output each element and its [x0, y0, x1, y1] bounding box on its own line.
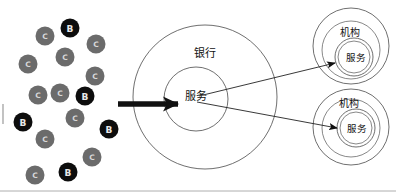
- node-c-circle: [83, 148, 102, 167]
- institution-top: 机构服务: [313, 8, 389, 84]
- node-c-circle: [66, 109, 85, 128]
- cluster-node: C: [29, 86, 48, 105]
- node-b-circle: [76, 87, 95, 106]
- bank-group: 银行服务: [133, 25, 277, 169]
- node-c-circle: [36, 27, 55, 46]
- cluster-node: B: [61, 19, 80, 38]
- cluster-node: C: [56, 48, 75, 67]
- institution-outer-label: 机构: [339, 97, 359, 109]
- node-b-circle: [61, 19, 80, 38]
- diagram-svg: 银行服务 机构服务机构服务 CBCCCCCCBBCBCCBC: [0, 0, 396, 194]
- institution-bottom: 机构服务: [313, 89, 389, 165]
- cluster-node: C: [36, 130, 55, 149]
- cluster-node: B: [14, 113, 33, 132]
- cluster-node: C: [36, 27, 55, 46]
- cluster-node: C: [26, 166, 45, 185]
- node-c-circle: [51, 84, 70, 103]
- cluster-node: C: [83, 148, 102, 167]
- cluster-node: C: [51, 84, 70, 103]
- node-c-circle: [19, 55, 38, 74]
- institutions-group: 机构服务机构服务: [313, 8, 389, 165]
- arrow-to-institution-bottom: [197, 102, 337, 128]
- node-b-circle: [100, 120, 119, 139]
- arrow-to-institution-top: [199, 63, 335, 96]
- node-c-circle: [86, 67, 105, 86]
- node-c-circle: [29, 86, 48, 105]
- diagram-canvas: 银行服务 机构服务机构服务 CBCCCCCCBBCBCCBC: [0, 0, 396, 194]
- institution-service-label: 服务: [347, 123, 367, 134]
- institution-outer-label: 机构: [340, 26, 360, 38]
- cluster-node: C: [87, 35, 106, 54]
- node-c-circle: [26, 166, 45, 185]
- bank-outer-label: 银行: [194, 46, 216, 60]
- cluster-node: C: [19, 55, 38, 74]
- cluster-node: C: [66, 109, 85, 128]
- node-c-circle: [56, 48, 75, 67]
- node-b-circle: [59, 163, 78, 182]
- client-cluster: CBCCCCCCBBCBCCBC: [14, 19, 119, 185]
- node-c-circle: [87, 35, 106, 54]
- bank-inner-label: 服务: [185, 90, 207, 103]
- cluster-node: B: [76, 87, 95, 106]
- cluster-node: B: [100, 120, 119, 139]
- node-b-circle: [14, 113, 33, 132]
- cluster-node: C: [86, 67, 105, 86]
- institution-service-label: 服务: [346, 52, 366, 63]
- node-c-circle: [36, 130, 55, 149]
- cluster-node: B: [59, 163, 78, 182]
- frame: [0, 104, 396, 191]
